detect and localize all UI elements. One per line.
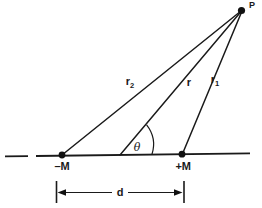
dimension-label-d: d	[117, 186, 124, 198]
dimension-line-group: d	[57, 181, 185, 203]
pole-negative-label: –M	[55, 160, 70, 172]
field-point-label: P	[249, 0, 255, 10]
ray-r-line	[120, 11, 242, 155]
pole-positive-label: +M	[175, 160, 190, 172]
angle-arc	[147, 125, 154, 154]
dimension-arrowhead-left	[58, 189, 67, 195]
pole-positive-dot	[179, 151, 186, 158]
ray-r-label: r	[187, 76, 192, 88]
dipole-geometry-diagram: r2 r r1 θ –M +M P d	[0, 0, 262, 208]
pole-negative-dot	[59, 152, 66, 159]
axis-line-main	[36, 153, 250, 156]
angle-theta-label: θ	[134, 141, 141, 154]
figure-container: r2 r r1 θ –M +M P d	[0, 0, 262, 208]
ray-r2-label-subscript: 2	[130, 81, 134, 90]
dimension-arrowhead-right	[174, 189, 183, 195]
axis-line-group	[5, 153, 250, 156]
field-point-dot	[238, 7, 245, 14]
ray-r1-label-subscript: 1	[215, 79, 219, 88]
ray-r2-label: r2	[126, 75, 134, 90]
ray-r1-label: r1	[211, 73, 219, 88]
